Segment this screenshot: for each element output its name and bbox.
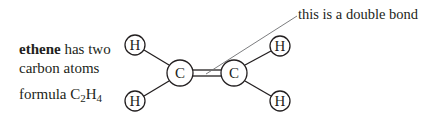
- atom-label-h2: H: [130, 93, 141, 109]
- atom-label-c2: C: [229, 65, 239, 81]
- atom-label-h1: H: [130, 37, 141, 53]
- bond-c2-h3: [245, 51, 271, 65]
- atom-label-h4: H: [275, 93, 286, 109]
- atom-label-h3: H: [275, 38, 286, 54]
- ethene-molecule-diagram: H H C C H H: [0, 0, 441, 120]
- bond-c2-h4: [245, 81, 271, 96]
- bond-h1-c1: [144, 50, 169, 65]
- bond-h2-c1: [144, 81, 169, 96]
- atom-label-c1: C: [175, 65, 185, 81]
